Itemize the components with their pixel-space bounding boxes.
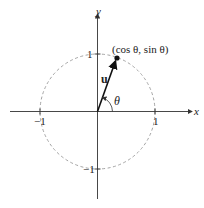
tick-label-x-neg: −1: [34, 116, 46, 127]
angle-label: θ: [114, 95, 120, 107]
x-axis-label: x: [194, 106, 199, 117]
tick-label-y-pos: 1: [87, 49, 93, 60]
point-label: (cos θ, sin θ): [112, 44, 168, 55]
point-on-circle: [114, 55, 119, 60]
diagram-graphics: [0, 0, 204, 208]
vector-u: [98, 61, 116, 112]
tick-label-x-pos: 1: [153, 116, 159, 127]
unit-circle-diagram: y x −1 1 1 −1 u θ (cos θ, sin θ): [0, 0, 204, 208]
vector-label: u: [101, 73, 108, 85]
y-axis-label: y: [96, 6, 101, 17]
tick-label-y-neg: −1: [83, 164, 95, 175]
angle-arc: [103, 98, 113, 112]
